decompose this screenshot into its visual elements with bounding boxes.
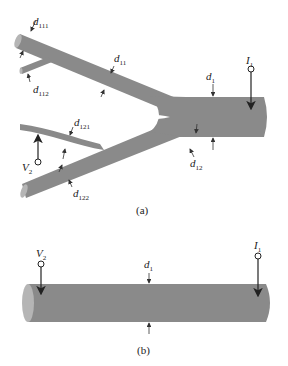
figure-b-cylinder bbox=[22, 284, 270, 322]
label-d121: d121 bbox=[74, 116, 91, 131]
branch-d121 bbox=[20, 124, 104, 150]
label-i1-b: I1 bbox=[253, 239, 262, 254]
label-d122: d122 bbox=[73, 187, 90, 202]
label-d111: d111 bbox=[33, 15, 49, 30]
label-i1-a: I1 bbox=[245, 54, 254, 69]
branch-d11 bbox=[16, 34, 176, 112]
cylinder-body bbox=[28, 284, 270, 322]
label-d1-b: d1 bbox=[144, 258, 154, 273]
electrode-v2-a bbox=[35, 136, 41, 165]
label-d12: d12 bbox=[190, 157, 203, 172]
caption-a: (a) bbox=[136, 204, 149, 217]
label-v2-b: V2 bbox=[36, 247, 47, 262]
label-d1-a: d1 bbox=[206, 70, 216, 85]
end-cap-d112 bbox=[20, 68, 23, 74]
dendrite-diagram: d1 I1 d11 d111 d112 d121 d122 d12 V2 (a)… bbox=[0, 0, 288, 366]
branch-d112 bbox=[20, 57, 52, 74]
label-v2-a: V2 bbox=[22, 161, 33, 176]
cylinder-end-cap bbox=[22, 284, 34, 322]
label-d112: d112 bbox=[33, 83, 49, 98]
caption-b: (b) bbox=[137, 344, 150, 357]
label-d11: d11 bbox=[114, 52, 127, 67]
figure-a-tree bbox=[13, 33, 267, 198]
